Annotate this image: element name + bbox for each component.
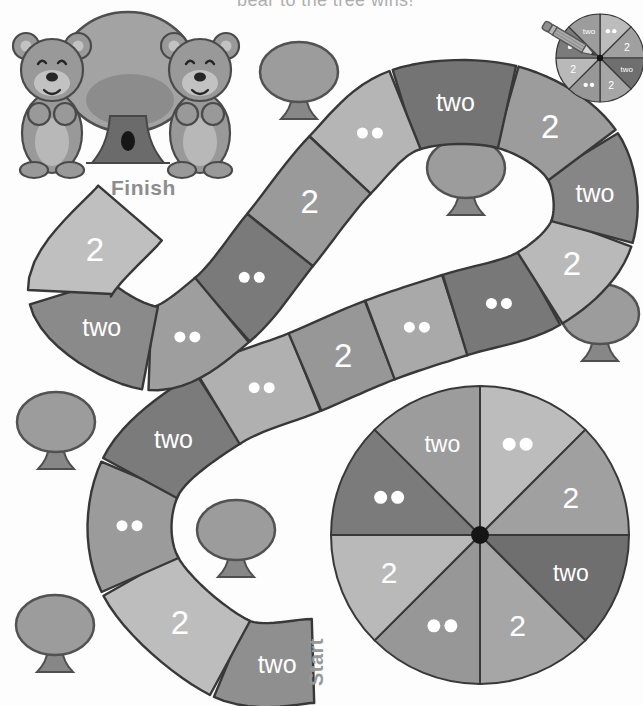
space-label: 2 xyxy=(300,183,318,220)
dot-pair xyxy=(427,619,440,632)
space-label: 2 xyxy=(86,231,104,268)
dot-pair xyxy=(357,128,368,139)
path-space-18: 2 xyxy=(28,186,162,297)
tree-5 xyxy=(197,500,275,577)
game-board-svg: two2two22two2two2two2 2two22two2two22two xyxy=(0,0,643,706)
dot-pair xyxy=(404,322,415,333)
small-spinner-center-dot xyxy=(597,55,603,61)
space-label: two xyxy=(575,179,614,207)
space-label: 2 xyxy=(381,556,398,589)
space-label: 2 xyxy=(570,63,576,75)
dot-pair xyxy=(583,83,587,87)
small-spinner: 2two22two xyxy=(556,14,643,102)
space-label: 2 xyxy=(171,604,189,641)
tree-2 xyxy=(427,138,505,215)
space-label: 2 xyxy=(541,108,559,145)
dot-pair xyxy=(174,331,185,342)
dot-pair xyxy=(117,520,128,531)
large-spinner: 2two22two xyxy=(331,386,629,684)
space-label: 2 xyxy=(608,79,614,91)
dot-pair xyxy=(486,298,497,309)
dot-pair xyxy=(503,438,516,451)
space-label: two xyxy=(82,313,121,341)
space-label: two xyxy=(154,425,193,453)
instruction-text: bear to the tree wins! xyxy=(237,0,497,11)
finish-illustration xyxy=(13,12,239,178)
start-label: Start xyxy=(305,627,327,697)
path-space-17: two xyxy=(30,279,158,389)
dot-pair xyxy=(374,491,387,504)
space-label: 2 xyxy=(563,481,580,514)
space-label: 2 xyxy=(334,337,352,374)
worksheet-page: two2two22two2two2two2 2two22two2two22two… xyxy=(0,0,643,706)
dot-pair xyxy=(249,382,260,393)
space-label: two xyxy=(436,88,475,116)
large-spinner-center-dot xyxy=(471,526,489,544)
space-label: two xyxy=(583,27,596,36)
space-label: two xyxy=(553,560,589,586)
space-label: two xyxy=(258,650,297,678)
dot-pair xyxy=(239,272,250,283)
space-label: 2 xyxy=(624,41,630,53)
space-label: 2 xyxy=(563,245,581,282)
space-label: 2 xyxy=(509,609,526,642)
finish-label: Finish xyxy=(111,176,176,200)
space-label: two xyxy=(424,431,460,457)
dot-pair xyxy=(606,29,610,33)
tree-6 xyxy=(16,595,94,672)
tree-4 xyxy=(17,392,95,469)
space-label: two xyxy=(621,65,634,74)
tree-1 xyxy=(260,42,338,119)
